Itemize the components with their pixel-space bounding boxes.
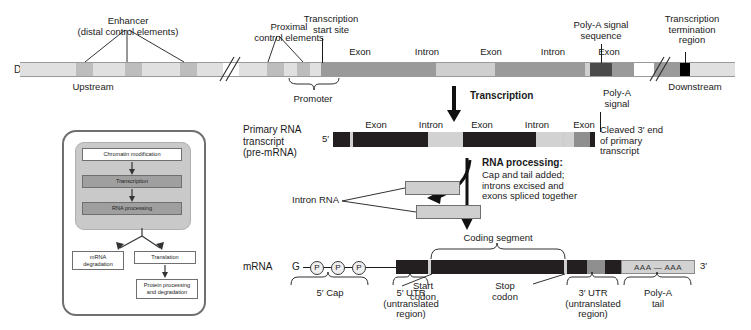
mrna-row-label: mRNA	[243, 261, 272, 273]
label-downstream: Downstream	[655, 82, 735, 93]
cap-phosphate-3: P	[352, 261, 366, 275]
premrna-polya-signal-block	[574, 132, 590, 147]
inset-chromatin-modification-box: Chromatin modification	[82, 148, 182, 161]
mrna-three-utr-a	[567, 260, 587, 274]
transcription-arrow	[446, 86, 468, 122]
dna-proximal-control-element-2	[297, 63, 310, 76]
label-enhancer: Enhancer (distal control elements)	[38, 16, 218, 37]
inset-arrow-1	[128, 162, 137, 175]
dna-polya-signal-block	[590, 63, 612, 76]
label-transcription-start-site: Transcription start site	[284, 14, 378, 35]
dna-intron-label-1: Intron	[404, 47, 450, 58]
premrna-exon-label-2: Exon	[460, 120, 504, 131]
dna-exon-label-2: Exon	[469, 47, 513, 58]
inset-protein-processing-box: Protein processing and degradation	[136, 279, 198, 299]
dna-distal-control-element-2	[125, 63, 142, 76]
cap-phosphate-1: P	[310, 261, 324, 275]
label-intron-rna: Intron RNA	[255, 195, 339, 206]
mrna-three-utr-signal	[587, 260, 605, 274]
label-three-utr: 3′ UTR (untranslated region)	[554, 288, 632, 320]
label-stop-codon: Stop codon	[478, 281, 532, 302]
label-transcription-termination-region: Transcription termination region	[640, 14, 744, 46]
label-transcription-step: Transcription	[470, 91, 566, 102]
dna-intron-label-2: Intron	[530, 47, 576, 58]
dna-intron-1	[436, 63, 495, 76]
label-rna-processing-body: Cap and tail added; introns excised and …	[482, 170, 652, 202]
cap-bond-2	[324, 267, 331, 268]
cap-bond-4	[366, 267, 396, 268]
premrna-five-prime-label: 5′	[322, 133, 329, 144]
coding-segment-brace	[430, 247, 566, 260]
mrna-three-utr-b	[605, 260, 621, 274]
polya-tail-brace	[623, 275, 693, 287]
three-utr-brace	[566, 275, 620, 287]
cap-guanine-label: G	[292, 261, 300, 272]
inset-branch-arrows	[104, 228, 180, 252]
cap-phosphate-2: P	[331, 261, 345, 275]
inset-arrow-3	[161, 265, 170, 278]
cap-bond-3	[345, 267, 352, 268]
label-rna-processing-title: RNA processing:	[482, 158, 642, 169]
mrna-three-prime-label: 3′	[700, 260, 707, 271]
dna-proximal-control-element-1	[267, 63, 284, 76]
inset-translation-box: Translation	[134, 251, 196, 264]
five-cap-brace	[290, 275, 370, 287]
label-coding-segment: Coding segment	[440, 233, 556, 244]
label-polya-tail: Poly-A tail	[623, 288, 693, 309]
dna-termination-block	[680, 63, 690, 76]
premrna-exon-label-1: Exon	[354, 120, 398, 131]
termination-leader-line	[685, 52, 686, 63]
dna-distal-control-element-1	[76, 63, 93, 76]
dna-exon-label-3: Exon	[587, 47, 631, 58]
inset-mrna-degradation-box: mRNA degradation	[72, 251, 124, 270]
intron-rna-leader-lines	[340, 180, 430, 222]
premrna-exon-1b	[353, 132, 428, 147]
dna-exon-1	[321, 63, 436, 76]
figure-canvas: DNA En	[0, 0, 751, 330]
dna-exon-label-1: Exon	[338, 47, 382, 58]
promoter-brace	[288, 78, 340, 92]
label-upstream: Upstream	[58, 82, 128, 93]
premrna-intron-label-1: Intron	[408, 120, 454, 131]
inset-rna-processing-box: RNA processing	[82, 202, 182, 215]
premrna-strand	[333, 132, 595, 147]
gene-expression-pathway-inset: Chromatin modification Transcription RNA…	[62, 130, 206, 316]
premrna-exon-1	[333, 132, 350, 147]
label-premrna-polya-signal: Poly-A signal	[587, 88, 647, 109]
dna-post-polya-region	[612, 63, 634, 76]
label-cleaved-three-prime-end: Cleaved 3′ end of primary transcript	[600, 125, 750, 157]
premrna-intron-1	[428, 132, 463, 147]
stop-codon-leader-line	[527, 272, 569, 288]
inset-transcription-box: Transcription	[82, 175, 182, 188]
mrna-polya-tail-box: AAA — AAA	[621, 260, 695, 274]
dna-exon-2	[495, 63, 585, 76]
label-five-cap: 5′ Cap	[292, 288, 368, 299]
inset-arrow-2	[128, 189, 137, 202]
premrna-exon-2	[463, 132, 536, 147]
cap-bond-1	[303, 267, 310, 268]
label-five-utr: 5′ UTR (untranslated region)	[373, 288, 449, 320]
dna-distal-control-element-3	[180, 63, 197, 76]
label-promoter: Promoter	[268, 94, 358, 105]
premrna-intron-label-2: Intron	[514, 120, 560, 131]
premrna-exon3-segment	[562, 132, 565, 147]
five-utr-brace	[392, 275, 430, 287]
